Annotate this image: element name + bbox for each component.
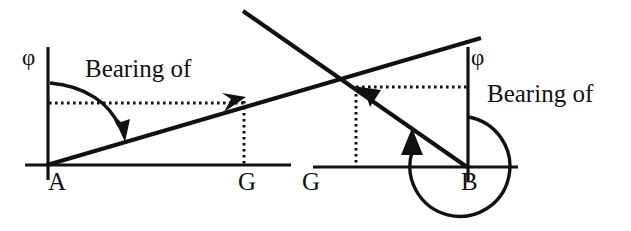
left-phi-symbol: φ xyxy=(22,46,35,69)
right-bearing-label: Bearing of xyxy=(487,81,593,106)
right-phi-symbol: φ xyxy=(471,46,484,69)
left-bearing-arc xyxy=(50,83,119,126)
right-station-label-b: B xyxy=(461,169,478,194)
left-grid-label-g: G xyxy=(238,169,256,194)
bearing-diagram-figure: φ Bearing of A G G φ Bearing of B xyxy=(0,0,631,231)
right-grid-label-g: G xyxy=(302,169,320,194)
left-bearing-arc-arrowhead xyxy=(112,114,130,142)
diagram-canvas xyxy=(0,0,631,231)
left-station-label-a: A xyxy=(48,169,66,194)
left-bearing-label: Bearing of xyxy=(85,56,191,81)
